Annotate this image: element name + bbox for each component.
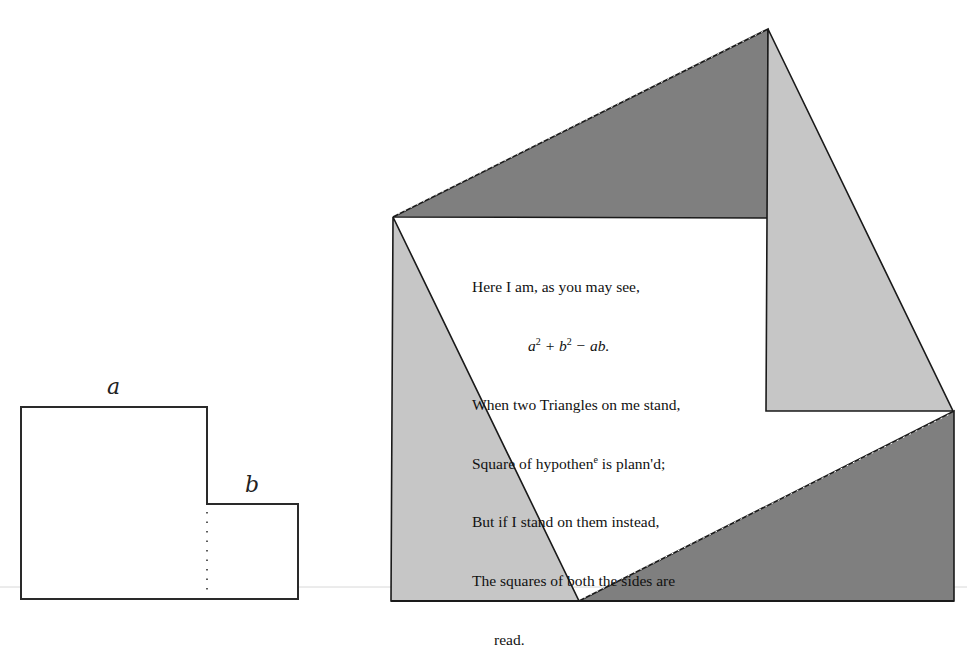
poem-line-4-post: is plann'd; bbox=[598, 455, 665, 472]
var-b: b bbox=[559, 337, 567, 354]
poem-line-2-formula: a2 + b2 − ab. bbox=[472, 336, 680, 356]
poem-line-1: Here I am, as you may see, bbox=[472, 277, 680, 297]
poem-line-6: The squares of both the sides are bbox=[472, 571, 680, 591]
poem-line-4-pre: Square of hypothen bbox=[472, 455, 593, 472]
label-a: a bbox=[107, 374, 120, 399]
period: . bbox=[605, 337, 609, 354]
right-light-triangle bbox=[766, 29, 953, 411]
step-outline bbox=[21, 407, 298, 599]
poem-line-3: When two Triangles on me stand, bbox=[472, 395, 680, 415]
poem-line-4: Square of hypothene is plann'd; bbox=[472, 454, 680, 474]
label-b: b bbox=[245, 472, 259, 497]
poem-line-5: But if I stand on them instead, bbox=[472, 512, 680, 532]
op-minus: − bbox=[572, 337, 590, 354]
left-step-figure bbox=[21, 407, 298, 599]
op-plus: + bbox=[541, 337, 559, 354]
poem-line-7: read. bbox=[472, 630, 680, 649]
var-ab: ab bbox=[590, 337, 606, 354]
var-a: a bbox=[528, 337, 536, 354]
poem-text: Here I am, as you may see, a2 + b2 − ab.… bbox=[472, 238, 680, 649]
